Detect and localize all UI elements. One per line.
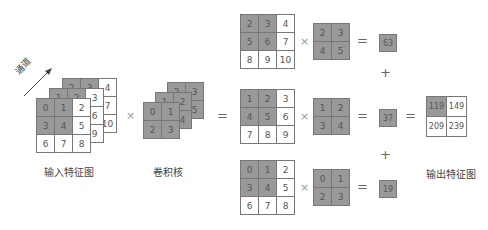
row-1-kernel: 2345	[313, 23, 350, 60]
grid-cell: 4	[314, 42, 331, 59]
grid-cell: 1	[162, 103, 179, 120]
grid-cell: 8	[73, 135, 90, 152]
input-channel-1: 012345678	[36, 98, 91, 153]
grid-cell: 4	[277, 15, 294, 32]
grid-cell: 0	[144, 103, 161, 120]
row-2-input: 123456789	[240, 89, 295, 144]
grid-cell: 5	[277, 179, 294, 196]
times-operator: ×	[300, 111, 309, 122]
grid-cell: 3	[332, 24, 349, 41]
grid-cell: 2	[314, 24, 331, 41]
grid-cell: 6	[277, 108, 294, 125]
times-operator: ×	[300, 182, 309, 193]
grid-cell: 4	[55, 117, 72, 134]
grid-cell: 1	[332, 170, 349, 187]
grid-cell: 3	[332, 188, 349, 205]
equals-operator: =	[217, 109, 228, 122]
grid-cell: 1	[241, 90, 258, 107]
row-1-input: 2345678910	[240, 14, 295, 69]
grid-cell: 8	[259, 126, 276, 143]
grid-cell: 8	[277, 197, 294, 214]
grid-cell: 7	[277, 33, 294, 50]
grid-cell: 5	[259, 108, 276, 125]
grid-cell: 6	[259, 33, 276, 50]
grid-cell: 2	[241, 15, 258, 32]
grid-cell: 5	[73, 117, 90, 134]
grid-cell: 2	[314, 188, 331, 205]
grid-cell: 3	[241, 179, 258, 196]
equals-operator: =	[357, 109, 368, 122]
output-feature-map: 119149209239	[426, 96, 467, 137]
grid-cell: 1	[55, 99, 72, 116]
grid-cell: 0	[314, 170, 331, 187]
grid-cell: 0	[241, 161, 258, 178]
grid-cell: 4	[332, 117, 349, 134]
grid-cell: 9	[259, 51, 276, 68]
row-2-kernel: 1234	[313, 98, 350, 135]
grid-cell: 7	[55, 135, 72, 152]
grid-cell: 209	[427, 117, 446, 136]
kernel-channel-1: 0123	[143, 102, 180, 139]
grid-cell: 3	[314, 117, 331, 134]
grid-cell: 10	[277, 51, 294, 68]
grid-cell: 1	[314, 99, 331, 116]
grid-cell: 2	[277, 161, 294, 178]
plus-operator: +	[380, 148, 391, 161]
grid-cell: 5	[241, 33, 258, 50]
times-operator: ×	[126, 110, 135, 121]
equals-operator: =	[357, 34, 368, 47]
grid-cell: 3	[259, 15, 276, 32]
grid-cell: 1	[259, 161, 276, 178]
row-3-input: 012345678	[240, 160, 295, 215]
grid-cell: 2	[332, 99, 349, 116]
grid-cell: 7	[259, 197, 276, 214]
grid-cell: 6	[241, 197, 258, 214]
times-operator: ×	[300, 36, 309, 47]
grid-cell: 4	[259, 179, 276, 196]
input-feature-map-label: 输入特征图	[44, 164, 94, 179]
output-feature-map-label: 输出特征图	[426, 166, 476, 181]
grid-cell: 3	[277, 90, 294, 107]
grid-cell: 2	[144, 121, 161, 138]
grid-cell: 119	[427, 97, 446, 116]
equals-operator: =	[357, 180, 368, 193]
grid-cell: 239	[447, 117, 466, 136]
row-1-result: 63	[379, 34, 397, 52]
grid-cell: 3	[37, 117, 54, 134]
grid-cell: 8	[241, 51, 258, 68]
row-3-kernel: 0123	[313, 169, 350, 206]
grid-cell: 3	[162, 121, 179, 138]
kernel-label: 卷积核	[153, 164, 183, 179]
grid-cell: 4	[241, 108, 258, 125]
grid-cell: 7	[241, 126, 258, 143]
grid-cell: 149	[447, 97, 466, 116]
grid-cell: 0	[37, 99, 54, 116]
row-3-result: 19	[379, 180, 397, 198]
row-2-result: 37	[379, 109, 397, 127]
grid-cell: 5	[332, 42, 349, 59]
equals-operator: =	[405, 109, 416, 122]
grid-cell: 2	[259, 90, 276, 107]
grid-cell: 6	[37, 135, 54, 152]
grid-cell: 2	[73, 99, 90, 116]
grid-cell: 9	[277, 126, 294, 143]
plus-operator: +	[380, 66, 391, 79]
